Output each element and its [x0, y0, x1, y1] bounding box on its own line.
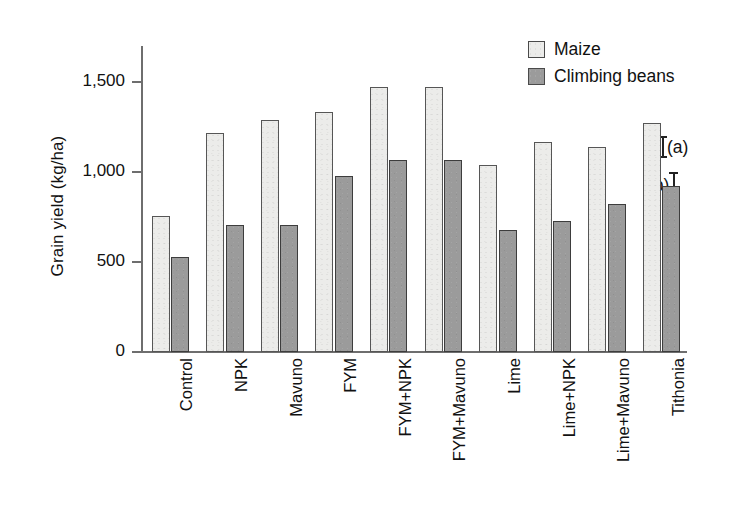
bar-maize [588, 147, 606, 352]
y-axis-title: Grain yield (kg/ha) [48, 86, 68, 326]
x-axis-tick-label: Lime [505, 358, 524, 394]
bar-maize [643, 123, 661, 353]
bar-climbing-beans [280, 225, 298, 352]
bar-climbing-beans [444, 160, 462, 352]
bar-group [206, 46, 244, 352]
bar-climbing-beans [662, 186, 680, 353]
bar-climbing-beans [335, 176, 353, 352]
error-bar-annotation-a: (a) [658, 136, 688, 158]
bar-group [261, 46, 299, 352]
legend-label-climbing-beans: Climbing beans [554, 66, 675, 87]
bar-group [152, 46, 190, 352]
plot-area [141, 46, 687, 352]
bar-maize [206, 133, 224, 352]
bar-group [534, 46, 572, 352]
y-axis-tick-label: 1,500 [55, 71, 125, 91]
x-axis-tick-label: FYM [341, 358, 360, 393]
x-axis-tick-label: Lime+Mavuno [614, 358, 633, 462]
bar-climbing-beans [226, 225, 244, 352]
y-axis-tick-label: 500 [55, 251, 125, 271]
bar-group [479, 46, 517, 352]
bar-group [370, 46, 408, 352]
grain-yield-bar-chart: Grain yield (kg/ha) 05001,0001,500 Contr… [0, 0, 754, 519]
bar-maize [261, 120, 279, 352]
bar-group [588, 46, 626, 352]
bar-climbing-beans [553, 221, 571, 352]
bar-maize [425, 87, 443, 352]
x-axis-tick-label: Mavuno [287, 358, 306, 417]
bar-climbing-beans [499, 230, 517, 352]
legend-item-climbing-beans: Climbing beans [528, 63, 675, 90]
bar-maize [534, 142, 552, 352]
x-axis-tick-label: NPK [232, 358, 251, 392]
legend-swatch-maize-icon [528, 41, 545, 58]
legend-item-maize: Maize [528, 36, 675, 63]
error-bar-label-a: (a) [667, 137, 688, 158]
legend-label-maize: Maize [554, 39, 601, 60]
bar-climbing-beans [389, 160, 407, 352]
x-axis-tick-label: FYM+NPK [396, 358, 415, 436]
bar-maize [370, 87, 388, 352]
bar-maize [152, 216, 170, 352]
y-axis-tick-label: 0 [55, 341, 125, 361]
bar-maize [315, 112, 333, 352]
legend: Maize Climbing beans [528, 36, 675, 90]
x-axis-tick-label: FYM+Mavuno [450, 358, 469, 461]
x-axis-tick-label: Tithonia [669, 358, 688, 416]
bar-climbing-beans [171, 257, 189, 352]
bar-group [315, 46, 353, 352]
x-axis-tick-label: Lime+NPK [560, 358, 579, 437]
bar-maize [479, 165, 497, 352]
bar-group [425, 46, 463, 352]
bar-group [643, 46, 681, 352]
legend-swatch-climbing-beans-icon [528, 68, 545, 85]
y-axis-tick-label: 1,000 [55, 161, 125, 181]
x-axis-tick-label: Control [177, 358, 196, 411]
bar-climbing-beans [608, 204, 626, 352]
